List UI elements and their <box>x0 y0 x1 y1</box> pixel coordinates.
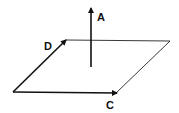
label-d: D <box>44 40 52 52</box>
plane-edge-top <box>66 40 170 41</box>
vector-diagram: A D C <box>0 0 179 113</box>
label-a: A <box>97 11 105 23</box>
vector-d-arrow <box>13 40 66 92</box>
vector-c-arrow <box>13 92 117 93</box>
label-c: C <box>106 99 114 111</box>
plane-edge-right <box>116 41 170 93</box>
